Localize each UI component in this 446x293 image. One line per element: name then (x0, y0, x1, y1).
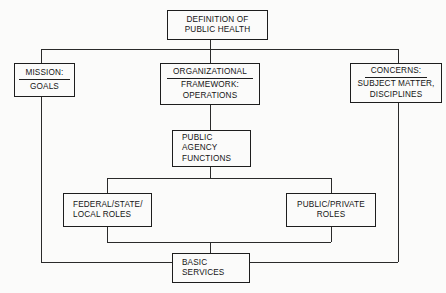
node-organizational-framework[interactable]: ORGANIZATIONAL FRAMEWORK: OPERATIONS (160, 63, 260, 105)
federal-state-line-2: LOCAL ROLES (73, 210, 131, 220)
connector-bus-to-public-private (331, 178, 332, 193)
node-definition-of-public-health[interactable]: DEFINITION OF PUBLIC HEALTH (167, 10, 268, 40)
basic-services-line-1: BASIC (182, 258, 207, 268)
public-private-line-1: PUBLIC/PRIVATE (291, 200, 371, 210)
concerns-line-1: SUBJECT MATTER, (351, 79, 440, 89)
definition-line-2: PUBLIC HEALTH (179, 25, 257, 35)
mission-line-1: GOALS (24, 82, 65, 92)
agency-line-1: PUBLIC (182, 133, 212, 143)
federal-state-line-1: FEDERAL/STATE/ (73, 200, 143, 210)
node-public-agency-functions[interactable]: PUBLIC AGENCY FUNCTIONS (172, 130, 251, 167)
node-mission-goals[interactable]: MISSION: GOALS (14, 63, 75, 97)
agency-line-3: FUNCTIONS (182, 154, 231, 164)
node-basic-services[interactable]: BASIC SERVICES (172, 253, 250, 283)
connector-federal-state-down (107, 227, 108, 242)
organizational-header: ORGANIZATIONAL (167, 67, 253, 79)
definition-line-1: DEFINITION OF (181, 15, 255, 25)
connector-bus-to-organizational (210, 49, 211, 63)
connector-converge-to-basic-services (210, 242, 211, 253)
connector-organizational-to-agency (210, 105, 211, 130)
organizational-line-1: FRAMEWORK: (175, 80, 245, 90)
connector-roles-converge-bus (107, 242, 331, 243)
diagram-canvas: DEFINITION OF PUBLIC HEALTH MISSION: GOA… (0, 0, 446, 293)
connector-top-bus (41, 49, 399, 50)
connector-bus-to-federal-state (107, 178, 108, 193)
connector-public-private-down (331, 227, 332, 242)
connector-mission-left-rail (41, 97, 42, 262)
connector-bus-to-concerns (398, 49, 399, 63)
concerns-line-2: DISCIPLINES (364, 90, 429, 100)
basic-services-line-2: SERVICES (182, 268, 224, 278)
node-public-private-roles[interactable]: PUBLIC/PRIVATE ROLES (286, 193, 376, 227)
connector-agency-to-roles-bus (210, 167, 211, 178)
connector-right-rail-to-basic-services (250, 262, 398, 263)
node-concerns-subject-matter[interactable]: CONCERNS: SUBJECT MATTER, DISCIPLINES (350, 63, 442, 103)
connector-bus-to-mission (41, 49, 42, 63)
connector-concerns-right-rail (398, 103, 399, 262)
organizational-line-2: OPERATIONS (177, 91, 244, 101)
connector-left-rail-to-basic-services (41, 262, 172, 263)
node-federal-state-local-roles[interactable]: FEDERAL/STATE/ LOCAL ROLES (63, 193, 152, 227)
public-private-line-2: ROLES (311, 210, 352, 220)
agency-line-2: AGENCY (182, 143, 217, 153)
connector-roles-bus (107, 178, 331, 179)
mission-header: MISSION: (19, 68, 69, 80)
concerns-header: CONCERNS: (365, 66, 427, 78)
